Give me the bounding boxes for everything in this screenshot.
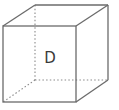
front-face (3, 26, 76, 102)
bottom-right-depth-edge (76, 80, 108, 102)
top-left-depth-edge (3, 5, 35, 26)
bottom-left-depth-edge (3, 80, 35, 102)
cube-diagram: D (0, 0, 119, 110)
face-label: D (44, 49, 56, 67)
top-right-depth-edge (76, 5, 108, 26)
